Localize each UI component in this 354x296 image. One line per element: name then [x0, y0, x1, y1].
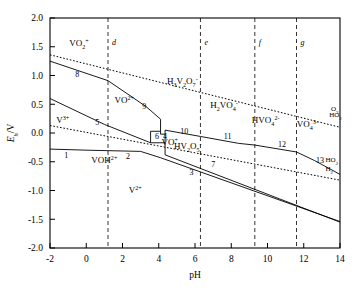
boundary-number-5: 5	[95, 118, 99, 127]
pourbaix-diagram-figure: -2.0-1.5-1.0-0.50.00.51.01.52.0-20246810…	[0, 0, 354, 296]
x-tick-label: 14	[335, 254, 345, 264]
boundary-number-7: 7	[211, 160, 215, 169]
boundary-number-3: 3	[189, 168, 193, 177]
boundary-1	[50, 149, 90, 150]
x-tick-label: 12	[299, 254, 309, 264]
x-tick-label: 8	[229, 254, 234, 264]
y-tick-label: -2.0	[28, 243, 43, 253]
boundary-11	[239, 143, 255, 145]
species-label-h3v2o7-minus: H3V2O7-	[167, 76, 198, 88]
boundary-number-6: 6	[155, 132, 159, 141]
pourbaix-diagram-svg: -2.0-1.5-1.0-0.50.00.51.01.52.0-20246810…	[0, 0, 354, 296]
boundary-number-8: 8	[75, 70, 79, 79]
species-label-vo2-plus: VO2+	[69, 38, 89, 50]
boundary-number-13: 13	[316, 156, 324, 165]
boundary-9	[108, 81, 161, 134]
y-tick-label: 0.5	[31, 100, 43, 110]
boundary-number-11: 11	[224, 132, 232, 141]
y-tick-label: -0.5	[28, 157, 43, 167]
species-label-vo-2plus: VO2+	[115, 95, 135, 105]
x-tick-label: 4	[156, 254, 161, 264]
y-tick-label: -1.0	[28, 186, 43, 196]
vertical-boundary-label-f: f	[259, 38, 263, 47]
y-axis-label: Eh/V	[6, 124, 19, 144]
vertical-boundary-label-g: g	[301, 38, 305, 47]
species-label-h2vo4-minus: H2VO4-	[210, 100, 238, 112]
x-tick-label: 2	[120, 254, 125, 264]
species-label-hvo4-2minus: HVO42-	[252, 115, 280, 127]
boundary-number-9: 9	[142, 102, 146, 111]
boundary-number-1: 1	[64, 151, 68, 160]
boundary-number-12: 12	[278, 140, 286, 149]
y-tick-label: 2.0	[31, 13, 43, 23]
species-label-v-3plus: V3+	[56, 115, 70, 125]
species-label-v-2plus: V2+	[129, 185, 143, 195]
vertical-boundary-label-d: d	[112, 38, 117, 47]
x-tick-label: -2	[46, 254, 54, 264]
y-tick-label: -1.5	[28, 215, 43, 225]
water-annotation-h2-annot: H2	[326, 165, 334, 175]
x-axis-label: pH	[189, 270, 201, 280]
water-annotation-ho2b-annot: HO2	[326, 156, 339, 166]
species-label-voh-2plus: VOH2+	[91, 155, 118, 165]
vertical-boundary-label-e: e	[204, 38, 208, 47]
y-tick-label: 0.0	[31, 128, 43, 138]
x-tick-label: 10	[263, 254, 273, 264]
species-label-vo4-3minus: VO43-	[297, 119, 318, 131]
x-tick-label: 6	[193, 254, 198, 264]
boundary-7	[165, 155, 340, 222]
y-tick-label: 1.0	[31, 71, 43, 81]
boundary-number-10: 10	[180, 127, 188, 136]
x-tick-label: 0	[84, 254, 89, 264]
boundary-number-2: 2	[126, 152, 130, 161]
species-label-hv2o5-minus: HV2O5-	[174, 141, 202, 153]
y-tick-label: 1.5	[31, 42, 43, 52]
